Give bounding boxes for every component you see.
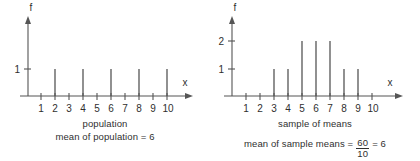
chart-panel-population: f x 1 1 2 3: [0, 0, 210, 161]
x-tick-label-7: 7: [122, 103, 128, 114]
x-tick-label-5: 5: [299, 103, 305, 114]
x-tick-label-5: 5: [94, 103, 100, 114]
x-axis-label: x: [388, 77, 393, 88]
y-axis-arrowhead: [25, 16, 31, 24]
x-tick-label-1: 1: [38, 103, 44, 114]
x-tick-label-4: 4: [80, 103, 86, 114]
figure-root: f x 1 1 2 3: [0, 0, 420, 161]
x-tick-label-3: 3: [66, 103, 72, 114]
y-tick-label-1: 1: [218, 64, 224, 75]
sample-axes: [224, 16, 403, 99]
x-axis-label: x: [183, 77, 188, 88]
y-tick-label-2: 2: [218, 36, 224, 47]
x-axis-arrowhead: [395, 93, 403, 99]
bar-series-sample-of-means: [274, 41, 358, 96]
x-tick-labels: 1 2 3 4 5 6 7 8 9 10: [243, 103, 379, 114]
x-tick-label-2: 2: [257, 103, 263, 114]
y-axis-label: f: [234, 2, 237, 13]
x-tick-label-6: 6: [313, 103, 319, 114]
fraction-numerator: 60: [356, 138, 369, 148]
bar-series-population: [55, 69, 167, 96]
y-axis-label: f: [30, 2, 33, 13]
x-tick-label-2: 2: [52, 103, 58, 114]
y-tick-label-1: 1: [14, 64, 20, 75]
chart-panel-sample-of-means: f x 1 2: [210, 0, 420, 161]
sample-of-means-plot: f x 1 2: [210, 0, 420, 118]
population-caption-line1: population: [0, 118, 210, 131]
x-tick-label-6: 6: [108, 103, 114, 114]
mean-fraction: 60 10: [356, 138, 369, 159]
x-tick-label-8: 8: [341, 103, 347, 114]
x-tick-label-3: 3: [271, 103, 277, 114]
x-tick-label-7: 7: [327, 103, 333, 114]
x-tick-label-1: 1: [243, 103, 249, 114]
sample-caption-line2: mean of sample means = 60 10 = 6: [244, 134, 386, 155]
x-axis-arrowhead: [185, 93, 193, 99]
x-tick-labels: 1 2 3 4 5 6 7 8 9 10: [38, 103, 174, 114]
population-caption-line2: mean of population = 6: [0, 131, 210, 144]
sample-caption-suffix: = 6: [372, 138, 386, 151]
fraction-denominator: 10: [356, 149, 369, 159]
x-tick-label-10: 10: [162, 103, 174, 114]
x-tick-label-9: 9: [355, 103, 361, 114]
sample-caption-line1: sample of means: [210, 118, 420, 131]
sample-caption-prefix: mean of sample means =: [244, 138, 353, 151]
y-axis-arrowhead: [229, 16, 235, 24]
x-tick-label-10: 10: [367, 103, 379, 114]
population-plot: f x 1 1 2 3: [0, 0, 210, 118]
x-tick-label-8: 8: [136, 103, 142, 114]
x-tick-label-9: 9: [150, 103, 156, 114]
sample-of-means-caption: sample of means mean of sample means = 6…: [210, 118, 420, 155]
x-tick-label-4: 4: [285, 103, 291, 114]
population-caption: population mean of population = 6: [0, 118, 210, 144]
